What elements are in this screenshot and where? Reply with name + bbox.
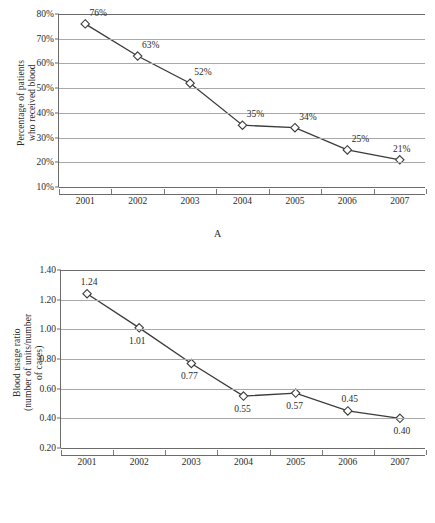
gridline [59,113,425,114]
gridline [59,187,425,188]
x-axis-tick-mark [374,450,375,455]
y-axis-tick-label: 1.00 [39,324,56,334]
data-point-label: 63% [142,40,159,50]
y-axis-tick-mark [55,38,59,39]
data-point-marker [343,146,351,154]
gridline [61,329,425,330]
x-axis-tick-mark [61,450,62,455]
figure-panel-a: Percentage of patients who received bloo… [0,0,435,262]
x-axis-tick-mark [322,450,323,455]
y-axis-tick-label: 1.40 [39,265,56,275]
data-point-label: 35% [247,109,264,119]
gridline [61,270,425,271]
data-point-label: 52% [194,67,211,77]
x-axis-tick-label: 2005 [285,196,304,206]
x-axis-tick-mark [111,189,112,194]
y-axis-tick-label: 1.20 [39,295,56,305]
data-point-label: 0.57 [286,401,303,411]
x-axis-line [61,455,425,456]
y-axis-tick-mark [57,359,61,360]
y-axis-tick-mark [55,112,59,113]
chart-a: Percentage of patients who received bloo… [0,0,435,215]
x-axis-tick-label: 2004 [233,196,252,206]
gridline [59,88,425,89]
data-point-label: 0.55 [234,404,251,414]
gridline [59,162,425,163]
data-point-label: 25% [352,134,369,144]
x-axis-tick-label: 2004 [234,457,253,467]
y-axis-tick-label: 10% [37,182,54,192]
y-axis-tick-mark [55,63,59,64]
x-axis-tick-mark [269,189,270,194]
y-axis-tick-mark [55,187,59,188]
y-axis-tick-label: 50% [37,83,54,93]
y-axis-tick-label: 0.80 [39,354,56,364]
x-axis-tick-mark [321,189,322,194]
data-point-marker [83,290,91,298]
gridline [59,14,425,15]
chart-a-y-axis-label: Percentage of patients who received bloo… [16,18,38,188]
gridline [59,63,425,64]
data-point-label: 34% [299,112,316,122]
x-axis-tick-mark [426,189,427,194]
x-axis-line [59,194,425,195]
data-point-marker [344,407,352,415]
x-axis-tick-mark [165,450,166,455]
data-point-label: 1.01 [129,336,146,346]
chart-b: Blood usage ratio (number of units/numbe… [0,262,435,474]
gridline [61,389,425,390]
data-point-label: 76% [89,8,106,18]
chart-b-plot-area: 0.200.400.600.801.001.201.40200120022003… [60,270,425,448]
x-axis-tick-mark [113,450,114,455]
chart-a-plot-area: 10%20%30%40%50%60%70%80%2001200220032004… [58,14,425,187]
data-point-label: 1.24 [81,277,98,287]
x-axis-tick-mark [270,450,271,455]
x-axis-tick-label: 2002 [130,457,149,467]
x-axis-tick-label: 2001 [76,196,95,206]
x-axis-tick-label: 2005 [286,457,305,467]
gridline [59,138,425,139]
x-axis-tick-label: 2002 [128,196,147,206]
y-axis-tick-mark [57,418,61,419]
y-axis-tick-mark [57,299,61,300]
gridline [59,39,425,40]
data-point-marker [291,389,299,397]
data-point-label: 21% [393,144,410,154]
y-axis-tick-label: 0.60 [39,384,56,394]
gridline [61,300,425,301]
y-axis-tick-mark [57,329,61,330]
x-axis-tick-label: 2003 [182,457,201,467]
panel-a-caption: A [0,228,435,239]
x-axis-tick-label: 2003 [181,196,200,206]
x-axis-tick-mark [426,450,427,455]
gridline [61,359,425,360]
data-point-marker [81,20,89,28]
y-axis-tick-label: 80% [37,9,54,19]
y-axis-tick-mark [55,88,59,89]
x-axis-tick-mark [374,189,375,194]
data-point-label: 0.77 [181,371,198,381]
x-axis-tick-label: 2001 [78,457,97,467]
chart-a-series [59,14,426,187]
data-point-marker [187,359,195,367]
y-axis-tick-label: 60% [37,58,54,68]
data-point-label: 0.40 [394,426,411,436]
x-axis-tick-mark [216,189,217,194]
data-point-marker [135,324,143,332]
y-axis-tick-label: 30% [37,133,54,143]
data-point-marker [291,123,299,131]
y-axis-tick-mark [55,137,59,138]
x-axis-tick-label: 2006 [338,457,357,467]
y-axis-tick-mark [57,448,61,449]
y-axis-tick-mark [55,14,59,15]
data-point-label: 0.45 [341,394,358,404]
x-axis-tick-label: 2007 [390,457,409,467]
figure-panel-b: Blood usage ratio (number of units/numbe… [0,262,435,523]
x-axis-tick-label: 2006 [338,196,357,206]
gridline [61,448,425,449]
y-axis-tick-label: 70% [37,34,54,44]
x-axis-tick-mark [164,189,165,194]
y-axis-tick-mark [55,162,59,163]
y-axis-tick-label: 40% [37,108,54,118]
x-axis-tick-mark [217,450,218,455]
